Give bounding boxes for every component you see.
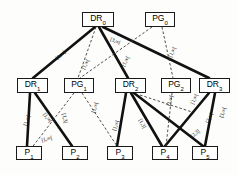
node-subscript: 2	[135, 86, 138, 92]
node-subscript: 2	[76, 154, 79, 160]
node-base-text: PG	[71, 79, 83, 89]
node-base-text: PG	[168, 79, 180, 89]
node-subscript: 1	[83, 86, 86, 92]
node-p2[interactable]: P2	[62, 146, 88, 160]
node-label: DR0	[90, 14, 106, 25]
node-subscript: 4	[166, 154, 169, 160]
node-dr1[interactable]: DR1	[17, 78, 48, 93]
node-subscript: 3	[219, 86, 222, 92]
node-label: P1	[24, 148, 33, 159]
edge-dr0-dr3	[103, 27, 209, 78]
node-subscript: 1	[37, 86, 40, 92]
node-label: PG1	[71, 80, 87, 91]
node-base-text: DR	[123, 79, 135, 89]
node-pg1[interactable]: PG1	[64, 78, 94, 93]
node-label: P3	[115, 148, 124, 159]
node-subscript: 0	[102, 20, 105, 26]
node-pg0[interactable]: PG0	[145, 12, 175, 27]
diagram-canvas: DR0PG0DR1PG1DR2PG2DR3P1P2P3P4P5 [1,∞[[3,…	[0, 0, 237, 175]
edge-label-pg1-left: [1,3]	[61, 113, 68, 124]
node-p1[interactable]: P1	[16, 146, 42, 160]
node-dr2[interactable]: DR2	[115, 78, 146, 93]
edge-pg1-p3	[82, 93, 117, 146]
node-label: DR1	[25, 80, 41, 91]
node-label: DR2	[123, 80, 139, 91]
node-dr3[interactable]: DR3	[199, 78, 230, 93]
node-subscript: 2	[180, 86, 183, 92]
node-subscript: 0	[164, 20, 167, 26]
node-label: DR3	[207, 80, 223, 91]
node-p3[interactable]: P3	[107, 146, 133, 160]
node-subscript: 5	[206, 154, 209, 160]
edge-dr2-p4	[131, 93, 162, 146]
node-base-text: DR	[207, 79, 219, 89]
node-p4[interactable]: P4	[152, 146, 178, 160]
node-base-text: DR	[90, 13, 102, 23]
node-base-text: PG	[152, 13, 164, 23]
node-dr0[interactable]: DR0	[82, 12, 114, 27]
node-base-text: DR	[25, 79, 37, 89]
node-label: PG2	[168, 80, 184, 91]
node-label: P2	[70, 148, 79, 159]
node-label: PG0	[152, 14, 168, 25]
node-label: P4	[160, 148, 169, 159]
node-pg2[interactable]: PG2	[161, 78, 191, 93]
node-subscript: 3	[121, 154, 124, 160]
node-subscript: 1	[30, 154, 33, 160]
node-p5[interactable]: P5	[192, 146, 218, 160]
edge-dr0-dr2	[99, 27, 128, 78]
node-label: P5	[200, 148, 209, 159]
